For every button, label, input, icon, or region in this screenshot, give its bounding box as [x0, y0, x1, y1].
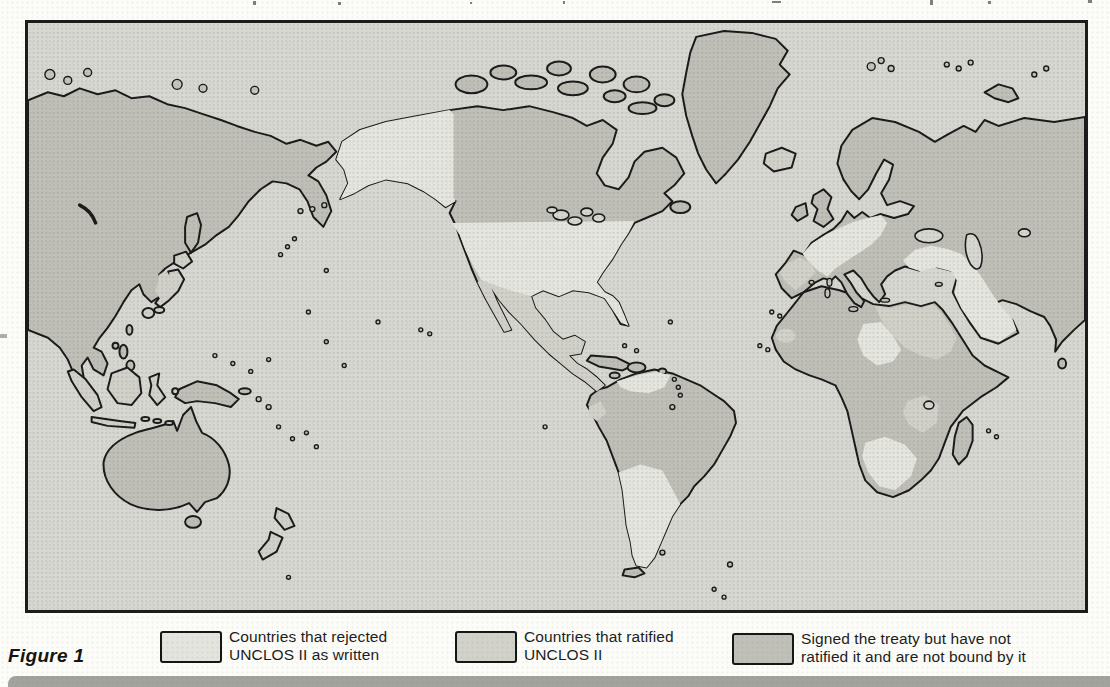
- legend-label-ratified-line1: Countries that ratified: [524, 628, 674, 646]
- legend-swatch-signed-not-ratified: [732, 633, 794, 665]
- legend-label-ratified-line2: UNCLOS II: [524, 646, 674, 664]
- page-bottom-rule: [8, 676, 1110, 687]
- figure-label: Figure 1: [8, 645, 84, 667]
- region-tasmania: [185, 516, 201, 528]
- legend-item-rejected: Countries that rejected UNCLOS II as wri…: [160, 628, 387, 664]
- region-kyushu: [142, 308, 154, 318]
- black-sea: [915, 229, 943, 243]
- legend-swatch-rejected: [160, 631, 222, 663]
- legend-label-rejected-line2: UNCLOS II as written: [229, 646, 387, 664]
- legend-item-ratified: Countries that ratified UNCLOS II: [455, 628, 674, 664]
- region-taiwan: [126, 325, 132, 335]
- legend-label-signed-line1: Signed the treaty but have not: [801, 630, 1026, 648]
- region-hispaniola: [628, 363, 646, 373]
- region-shikoku: [154, 307, 164, 313]
- region-philippines: [119, 345, 127, 359]
- region-west-africa-patch: [776, 329, 796, 343]
- aral-sea: [1018, 229, 1030, 237]
- region-sri-lanka: [1058, 359, 1066, 369]
- scan-margin-speck: [0, 334, 7, 338]
- legend-swatch-ratified: [455, 631, 517, 663]
- region-newfoundland: [670, 201, 690, 213]
- world-map-figure: [25, 20, 1088, 613]
- legend-item-signed-not-ratified: Signed the treaty but have not ratified …: [732, 630, 1026, 666]
- unclos-world-map: [28, 23, 1085, 610]
- legend-label-signed-line2: ratified it and are not bound by it: [801, 648, 1026, 666]
- lake-victoria: [924, 401, 934, 409]
- region-new-britain: [239, 388, 251, 394]
- legend-label-rejected-line1: Countries that rejected: [229, 628, 387, 646]
